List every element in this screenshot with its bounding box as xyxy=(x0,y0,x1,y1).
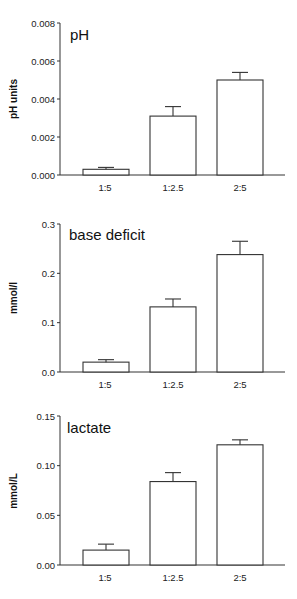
y-tick-label: 0.008 xyxy=(31,18,55,29)
y-axis-label: mmol/l xyxy=(8,282,19,314)
y-tick-label: 0.10 xyxy=(37,460,56,471)
y-tick-label: 0.002 xyxy=(31,132,55,143)
panel-title: lactate xyxy=(67,419,111,436)
y-tick-label: 0.2 xyxy=(42,268,55,279)
y-tick-label: 0.0 xyxy=(42,367,55,378)
chart-ph-svg: 0.0000.0020.0040.0060.008pH unitspH1:51:… xyxy=(0,0,297,200)
x-tick-label: 1:2.5 xyxy=(162,182,183,193)
chart-lactate: 0.000.050.100.15mmol/Llactate1:51:2.52:5 xyxy=(0,399,297,599)
bar xyxy=(150,307,196,372)
x-tick-label: 2:5 xyxy=(233,182,246,193)
x-tick-label: 1:2.5 xyxy=(162,572,183,583)
chart-lactate-svg: 0.000.050.100.15mmol/Llactate1:51:2.52:5 xyxy=(0,399,297,599)
chart-ph: 0.0000.0020.0040.0060.008pH unitspH1:51:… xyxy=(0,0,297,200)
y-tick-label: 0.006 xyxy=(31,56,55,67)
bar xyxy=(83,169,129,175)
y-tick-label: 0.1 xyxy=(42,317,55,328)
x-tick-label: 1:5 xyxy=(98,182,111,193)
x-tick-label: 2:5 xyxy=(233,379,246,390)
y-tick-label: 0.000 xyxy=(31,170,55,181)
y-tick-label: 0.05 xyxy=(37,510,56,521)
x-tick-label: 1:5 xyxy=(98,379,111,390)
y-axis-label: mmol/L xyxy=(8,473,19,509)
x-tick-label: 1:2.5 xyxy=(162,379,183,390)
y-tick-label: 0.15 xyxy=(37,411,56,422)
bar xyxy=(150,482,196,565)
bar xyxy=(217,255,263,372)
x-tick-label: 2:5 xyxy=(233,572,246,583)
bar xyxy=(217,80,263,175)
chart-base-deficit-svg: 0.00.10.20.3mmol/lbase deficit1:51:2.52:… xyxy=(0,200,297,400)
x-tick-label: 1:5 xyxy=(98,572,111,583)
y-axis-label: pH units xyxy=(8,79,19,119)
bar xyxy=(83,362,129,372)
bar xyxy=(150,116,196,175)
y-tick-label: 0.004 xyxy=(31,94,55,105)
y-tick-label: 0.00 xyxy=(37,560,56,571)
bar xyxy=(217,445,263,565)
panel-title: pH xyxy=(70,26,89,43)
chart-base-deficit: 0.00.10.20.3mmol/lbase deficit1:51:2.52:… xyxy=(0,200,297,400)
bar xyxy=(83,550,129,565)
panel-title: base deficit xyxy=(69,226,146,243)
y-tick-label: 0.3 xyxy=(42,219,55,230)
